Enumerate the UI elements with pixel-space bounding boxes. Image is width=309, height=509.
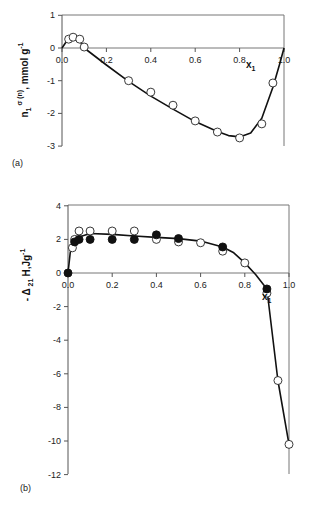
y-tick-label: 4 [56, 201, 61, 211]
open-data-point [285, 440, 293, 448]
y-tick-label: -6 [53, 369, 61, 379]
figure: 10-1-2-30.00.20.40.60.81.0x1n1σ (n), mmo… [0, 0, 309, 509]
x-tick-label: 0.6 [194, 280, 207, 290]
panel-label: (b) [20, 483, 31, 493]
open-data-point [86, 227, 94, 235]
fitted-curve [62, 38, 284, 137]
x-axis-label: x1 [246, 59, 256, 72]
y-tick-label: -12 [48, 470, 61, 480]
open-data-point [80, 43, 88, 51]
open-data-point [125, 77, 133, 85]
y-tick-label: 1 [50, 10, 55, 20]
x-tick-label: 0.8 [239, 280, 252, 290]
chart-panel-b: 420-2-4-6-8-10-120.00.20.40.60.81.0x1- Δ… [19, 201, 295, 493]
filled-data-point [219, 243, 227, 251]
y-tick-label: -3 [47, 141, 55, 151]
y-tick-label: -2 [53, 302, 61, 312]
x-tick-label: 0.4 [145, 55, 158, 65]
panel-label: (a) [12, 158, 23, 168]
filled-data-point [86, 235, 94, 243]
filled-data-point [152, 231, 160, 239]
x-tick-label: 0.0 [62, 280, 75, 290]
open-data-point [197, 239, 205, 247]
open-data-point [258, 120, 266, 128]
y-tick-label: -4 [53, 335, 61, 345]
open-data-point [75, 227, 83, 235]
x-tick-label: 0.2 [106, 280, 119, 290]
y-tick-label: -1 [47, 76, 55, 86]
fitted-curve [68, 234, 289, 445]
open-data-point [147, 88, 155, 96]
y-axis-label: - Δ21H,Jg-1 [19, 249, 34, 302]
y-tick-label: 0 [56, 268, 61, 278]
x-tick-label: 0.0 [56, 55, 69, 65]
filled-data-point [64, 269, 72, 277]
open-data-point [130, 227, 138, 235]
open-data-point [213, 128, 221, 136]
y-tick-label: -10 [48, 436, 61, 446]
open-data-point [269, 79, 277, 87]
open-data-point [108, 227, 116, 235]
y-tick-label: 0 [50, 43, 55, 53]
y-axis-label: n1σ (n), mmol g-1 [16, 42, 32, 117]
open-data-point [236, 134, 244, 142]
chart-panel-a: 10-1-2-30.00.20.40.60.81.0x1n1σ (n), mmo… [12, 10, 290, 168]
x-tick-label: 0.2 [100, 55, 113, 65]
filled-data-point [108, 235, 116, 243]
filled-data-point [175, 235, 183, 243]
open-data-point [169, 101, 177, 109]
open-data-point [241, 259, 249, 267]
y-tick-label: -8 [53, 402, 61, 412]
x-tick-label: 0.8 [233, 55, 246, 65]
open-data-point [274, 377, 282, 385]
open-data-point [76, 35, 84, 43]
filled-data-point [130, 235, 138, 243]
open-data-point [191, 117, 199, 125]
y-tick-label: 2 [56, 234, 61, 244]
x-tick-label: 0.6 [189, 55, 202, 65]
x-tick-label: 0.4 [150, 280, 163, 290]
y-tick-label: -2 [47, 108, 55, 118]
filled-data-point [75, 235, 83, 243]
x-tick-label: 1.0 [283, 280, 296, 290]
